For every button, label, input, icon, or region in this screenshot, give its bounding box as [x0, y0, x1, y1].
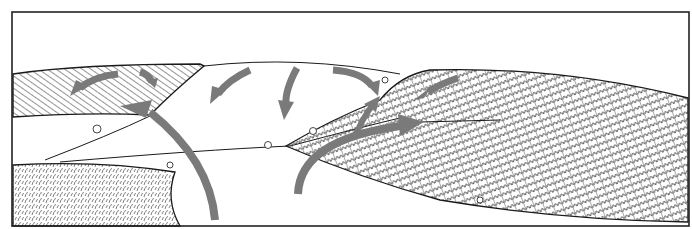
hillside-airflow-illustration	[0, 0, 692, 229]
lower-left-field	[13, 164, 180, 226]
